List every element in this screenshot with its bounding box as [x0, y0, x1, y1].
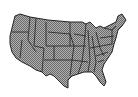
us-outline — [10, 14, 126, 88]
us-states-map — [0, 0, 138, 97]
